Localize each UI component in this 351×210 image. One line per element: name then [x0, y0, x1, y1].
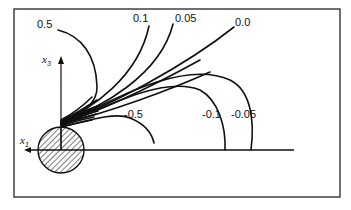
contour-diagram: 0.5 0.1 0.05 0.0 -0.5 -0.1 -0.05 x3 x1 [0, 0, 351, 210]
label-neg-0.1: -0.1 [202, 108, 221, 120]
x3-arrow-icon [58, 56, 64, 64]
label-neg-0.5: -0.5 [124, 108, 143, 120]
contour-0.5 [58, 30, 97, 121]
label-0.0: 0.0 [235, 16, 250, 28]
label-0.1: 0.1 [133, 12, 148, 24]
x1-axis-label: x1 [19, 134, 29, 148]
label-0.5: 0.5 [37, 18, 52, 30]
x3-axis-label: x3 [41, 53, 51, 67]
label-0.05: 0.05 [175, 12, 196, 24]
label-neg-0.05: -0.05 [231, 108, 256, 120]
hatched-body [38, 127, 84, 173]
